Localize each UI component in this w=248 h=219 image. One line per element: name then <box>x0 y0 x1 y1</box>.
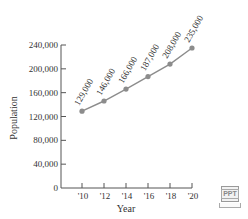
y-tick-label: 200,000 <box>29 64 59 74</box>
x-tick-label: '18 <box>166 191 177 201</box>
data-label: 235,000 <box>182 13 206 44</box>
series-line <box>82 48 192 111</box>
x-tick-label: '10 <box>78 191 89 201</box>
x-tick-label: '12 <box>100 191 111 201</box>
data-point <box>189 45 194 50</box>
y-tick-label: 160,000 <box>29 88 59 98</box>
ppt-icon[interactable]: PPT <box>219 186 241 212</box>
data-point <box>167 61 172 66</box>
x-tick-label: '16 <box>144 191 155 201</box>
y-axis-title: Population <box>8 96 19 139</box>
x-axis: '10'12'14'16'18'20 <box>61 183 199 201</box>
y-tick-label: 40,000 <box>33 159 58 169</box>
ppt-screen: PPT <box>221 186 239 202</box>
data-point <box>145 74 150 79</box>
data-label: 146,000 <box>94 66 118 97</box>
x-tick-label: '20 <box>188 191 199 201</box>
ppt-keyboard-base <box>219 203 241 208</box>
y-tick-label: 120,000 <box>29 112 59 122</box>
y-axis: 040,00080,000120,000160,000200,000240,00… <box>29 40 66 193</box>
data-label: 187,000 <box>138 42 162 73</box>
data-point <box>79 109 84 114</box>
x-axis-title: Year <box>117 203 136 214</box>
y-tick-label: 240,000 <box>29 40 59 50</box>
y-tick-label: 0 <box>54 183 59 193</box>
y-tick-label: 80,000 <box>33 135 58 145</box>
data-series: 129,000146,000166,000187,000208,000235,0… <box>72 13 206 114</box>
data-label: 166,000 <box>116 54 140 85</box>
data-label: 129,000 <box>72 76 96 107</box>
population-line-chart: 040,00080,000120,000160,000200,000240,00… <box>0 0 248 219</box>
ppt-label: PPT <box>221 189 239 199</box>
data-label: 208,000 <box>160 29 184 60</box>
data-point <box>123 86 128 91</box>
x-tick-label: '14 <box>122 191 133 201</box>
data-point <box>101 98 106 103</box>
